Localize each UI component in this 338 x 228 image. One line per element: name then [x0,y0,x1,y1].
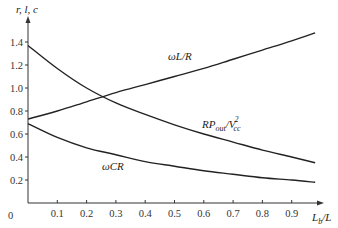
curve-label-rpout-vcc: RPout/V2cc [201,115,241,133]
x-tick-label: 0.2 [80,208,93,219]
curve-label-omega-l-r: ωL/R [168,50,192,62]
curve-rpout-vcc [28,45,315,162]
y-tick-label: 1.4 [10,37,24,48]
x-tick-label: 0.4 [139,208,153,219]
chart: r, l, c Lb/L 0 0.10.20.30.40.50.60.70.80… [0,0,338,228]
curve-label-omega-c-r: ωCR [102,160,124,172]
y-tick-label: 1.2 [10,60,23,71]
y-axis-arrow [26,16,31,23]
x-tick-label: 0.6 [197,208,210,219]
y-tick-label: 1.0 [10,83,23,94]
x-tick-label: 0.8 [256,208,269,219]
x-tick-label: 0.5 [168,208,181,219]
y-tick-label: 0.4 [10,152,24,163]
x-tick-label: 0.7 [227,208,240,219]
y-axis-title: r, l, c [16,3,38,15]
curve-label-sup: 2 [234,115,238,124]
x-tick-label: 0.3 [109,208,122,219]
curve-label-rp: RP [201,118,216,130]
y-tick-label: 0.2 [10,175,23,186]
curve-omega-l-r [28,33,315,119]
x-tick-label: 0.9 [285,208,298,219]
y-tick-label: 0.6 [10,129,23,140]
x-axis-title: Lb/L [311,211,331,226]
x-axis-title-main: L [311,211,318,223]
origin-label: 0 [8,210,13,221]
y-tick-label: 0.8 [10,106,23,117]
ticks: 0.10.20.30.40.50.60.70.80.90.20.40.60.81… [10,37,298,219]
x-tick-label: 0.1 [51,208,64,219]
curve-label-cc: cc [233,124,241,133]
x-axis-arrow [317,201,324,206]
x-axis-title-rest: /L [321,211,331,223]
